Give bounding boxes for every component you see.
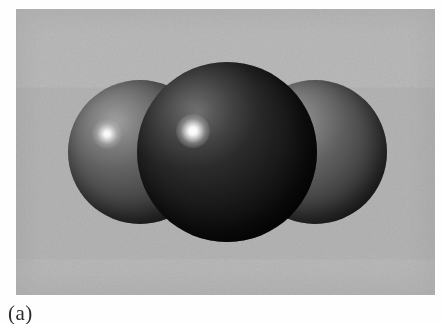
atom-center-sheen: [137, 62, 317, 242]
atom-left-specular-highlight: [92, 119, 122, 149]
figure-photo-plate: [16, 9, 435, 295]
atom-center-specular-highlight: [176, 114, 210, 148]
figure-page: (a): [0, 0, 444, 324]
atom-sphere-center: [137, 62, 317, 242]
figure-caption-label: (a): [8, 303, 33, 324]
